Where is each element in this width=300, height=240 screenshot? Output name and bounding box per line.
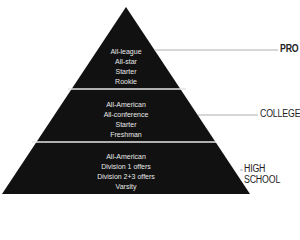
tier-item: All-league — [66, 47, 186, 57]
tier-item: All-American — [66, 100, 186, 110]
tier-item: All-American — [66, 152, 186, 162]
tier-pro-items: All-league All-star Starter Rookie — [66, 47, 186, 87]
tier-item: Rookie — [66, 77, 186, 87]
tier-item: Varsity — [66, 182, 186, 192]
tier-high-school-items: All-American Division 1 offers Division … — [66, 152, 186, 192]
tier-item: All-star — [66, 57, 186, 67]
tier-item: Starter — [66, 67, 186, 77]
tier-college-items: All-American All-conference Starter Fres… — [66, 100, 186, 140]
tier-item: Starter — [66, 120, 186, 130]
tier-item: All-conference — [66, 110, 186, 120]
tier-item: Division 1 offers — [66, 162, 186, 172]
tier-label-high-school: HIGH SCHOOL — [244, 163, 293, 185]
tier-item: Division 2+3 offers — [66, 172, 186, 182]
tier-label-college: COLLEGE — [260, 108, 300, 119]
tier-label-pro: PRO — [280, 43, 299, 54]
tier-item: Freshman — [66, 130, 186, 140]
